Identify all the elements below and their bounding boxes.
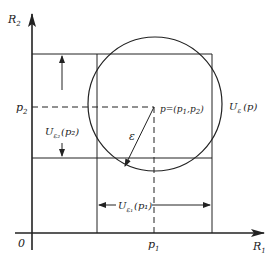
y-tick-p2: p2: [16, 101, 28, 116]
x-tick-p1: p1: [148, 238, 160, 253]
neighborhood-diagram: R2 R1 0 p2 p1 p=(p1,p2) Uε(p) ε Uε₂(p₂) …: [0, 0, 279, 262]
horizontal-interval-label: Uε₁(p₁): [118, 200, 152, 214]
origin-label: 0: [18, 237, 25, 250]
vertical-interval-label: Uε₂(p₂): [45, 126, 79, 140]
circle-label: Uε(p): [229, 101, 258, 115]
y-axis-label: R2: [7, 13, 21, 28]
radius-label: ε: [129, 130, 135, 143]
point-label: p=(p1,p2): [160, 104, 204, 116]
x-axis-label: R1: [252, 240, 266, 255]
